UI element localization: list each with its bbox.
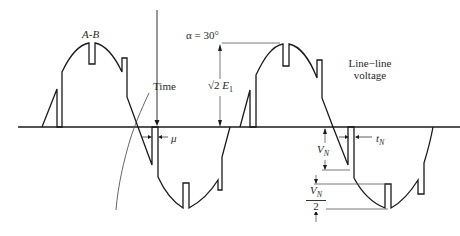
tn-sub: N — [379, 138, 384, 147]
amplitude-root: √2 — [208, 79, 220, 91]
amplitude-arrow-top — [218, 44, 222, 51]
mu-label: μ — [171, 132, 177, 144]
waveform-label: A-B — [82, 28, 99, 40]
alpha-label: α = 30° — [186, 29, 219, 41]
waveform-diagram — [0, 0, 460, 236]
half-vn-label: VN 2 — [306, 185, 326, 212]
line-line-text-1: Line−line — [340, 57, 400, 69]
time-label: Time — [153, 80, 176, 92]
tn-arrow-right-head — [355, 135, 359, 139]
vn-arrow-top — [323, 128, 327, 134]
line-line-voltage-label: Line−line voltage — [340, 57, 400, 81]
half-vn-den: 2 — [306, 201, 326, 212]
waveform-cycle-1 — [42, 43, 230, 208]
line-line-text-2: voltage — [340, 69, 400, 81]
tn-label: tN — [376, 132, 384, 149]
vn-var: V — [317, 143, 324, 155]
vn-label: VN — [317, 143, 329, 160]
half-vn-num-sub: N — [317, 190, 322, 199]
time-marker-arrow — [155, 120, 160, 126]
amplitude-arrow-bottom — [218, 120, 222, 127]
vn-arrow-bottom — [323, 165, 327, 170]
vn-sub: N — [324, 149, 329, 158]
waveform-cycle-2 — [240, 44, 433, 208]
amplitude-sub: 1 — [229, 85, 233, 94]
amplitude-label: √2 E1 — [208, 79, 233, 96]
half-vn-num: V — [310, 184, 317, 196]
